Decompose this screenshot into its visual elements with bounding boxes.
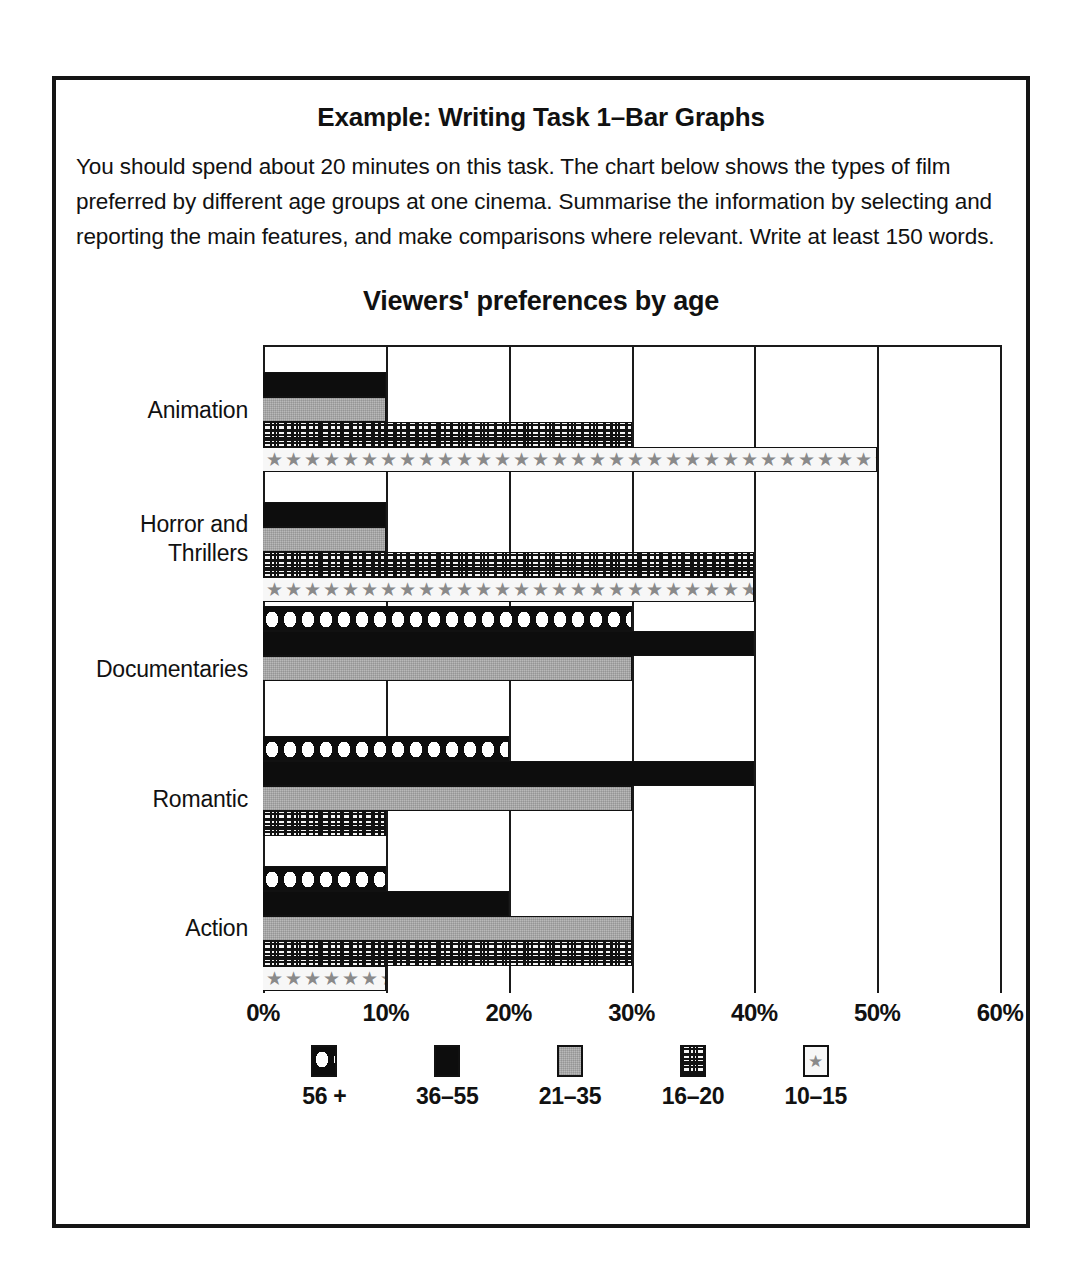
crosshatch-swatch <box>680 1045 706 1077</box>
legend-label: 36–55 <box>382 1083 512 1110</box>
bar: ★★★★★★★★★★★★★★★★★★★★★★★★★★★★★★★★★★★★★★★★ <box>263 447 877 472</box>
bar <box>263 916 632 941</box>
legend-label: 21–35 <box>505 1083 635 1110</box>
legend-item[interactable]: 21–35 <box>505 1045 635 1110</box>
star-swatch: ★ <box>803 1045 829 1077</box>
star-pattern-icon: ★★★★★★★★★★★★★★★★★★★★★★★★★★★★★★★★★★★★★★★★ <box>263 448 876 471</box>
category-label: Animation <box>148 395 248 424</box>
task-title: Example: Writing Task 1–Bar Graphs <box>56 102 1026 133</box>
bar <box>263 372 386 397</box>
star-pattern-icon: ★★★★★★★★★★★★★★★★★★★★★★★★★★★★★★★★★★★★★★★★ <box>263 967 385 990</box>
legend-label: 10–15 <box>751 1083 881 1110</box>
x-tick-label: 50% <box>854 999 901 1027</box>
x-tick-label: 10% <box>363 999 410 1027</box>
bar: ★★★★★★★★★★★★★★★★★★★★★★★★★★★★★★★★★★★★★★★★ <box>263 577 754 602</box>
bar <box>263 422 632 447</box>
bar <box>263 397 386 422</box>
bar <box>263 866 386 891</box>
bar <box>263 761 754 786</box>
x-tick-label: 60% <box>977 999 1024 1027</box>
legend-item[interactable]: 16–20 <box>628 1045 758 1110</box>
category-label: Action <box>185 914 248 943</box>
x-tick-label: 30% <box>608 999 655 1027</box>
bar <box>263 527 386 552</box>
x-axis-tick-labels: 0%10%20%30%40%50%60% <box>263 999 1000 1033</box>
x-tick-label: 0% <box>246 999 280 1027</box>
bar-group: ★★★★★★★★★★★★★★★★★★★★★★★★★★★★★★★★★★★★★★★★ <box>263 475 1000 605</box>
task-instructions: You should spend about 20 minutes on thi… <box>56 149 1026 254</box>
bar-group <box>263 604 1000 734</box>
legend-label: 16–20 <box>628 1083 758 1110</box>
bar <box>263 656 632 681</box>
bar <box>263 891 509 916</box>
bar-group: ★★★★★★★★★★★★★★★★★★★★★★★★★★★★★★★★★★★★★★★★ <box>263 345 1000 475</box>
bar <box>263 631 754 656</box>
bar <box>263 552 754 577</box>
bar: ★★★★★★★★★★★★★★★★★★★★★★★★★★★★★★★★★★★★★★★★ <box>263 966 386 991</box>
worksheet-page-frame: Example: Writing Task 1–Bar Graphs You s… <box>52 76 1030 1228</box>
legend-item[interactable]: ★10–15 <box>751 1045 881 1110</box>
bar <box>263 941 632 966</box>
category-label: Romantic <box>152 784 248 813</box>
solid-black-swatch <box>434 1045 460 1077</box>
star-pattern-icon: ★ <box>805 1047 827 1075</box>
gridline-60 <box>1000 345 1002 993</box>
category-label: Horror and Thrillers <box>140 510 248 568</box>
category-label: Documentaries <box>96 655 248 684</box>
star-pattern-icon: ★★★★★★★★★★★★★★★★★★★★★★★★★★★★★★★★★★★★★★★★ <box>263 578 753 601</box>
polka-dot-swatch <box>311 1045 337 1077</box>
chart-area: AnimationHorror and ThrillersDocumentari… <box>56 345 1026 1045</box>
category-axis-labels: AnimationHorror and ThrillersDocumentari… <box>56 345 256 993</box>
legend-label: 56 + <box>259 1083 389 1110</box>
bar <box>263 502 386 527</box>
bar <box>263 606 632 631</box>
plot-region: ★★★★★★★★★★★★★★★★★★★★★★★★★★★★★★★★★★★★★★★★… <box>263 345 1000 993</box>
bar <box>263 736 509 761</box>
x-axis-line <box>263 345 1000 347</box>
x-tick-label: 20% <box>485 999 532 1027</box>
bar-group <box>263 734 1000 864</box>
bar-group: ★★★★★★★★★★★★★★★★★★★★★★★★★★★★★★★★★★★★★★★★ <box>263 863 1000 993</box>
chart-title: Viewers' preferences by age <box>56 286 1026 317</box>
bar <box>263 786 632 811</box>
bar <box>263 811 386 836</box>
gray-swatch <box>557 1045 583 1077</box>
x-tick-label: 40% <box>731 999 778 1027</box>
legend-item[interactable]: 56 + <box>259 1045 389 1110</box>
legend-item[interactable]: 36–55 <box>382 1045 512 1110</box>
chart-legend: 56 +36–5521–3516–20★10–15 <box>263 1045 1000 1135</box>
